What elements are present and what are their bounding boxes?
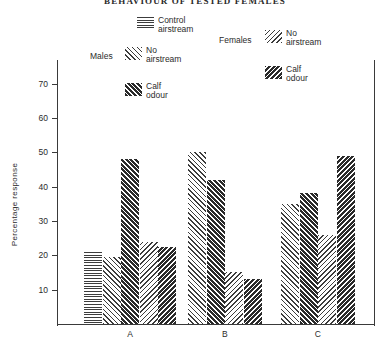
y-axis-title: Percentage response (10, 145, 19, 265)
swatch-reverse-diagonal-light-icon (265, 30, 282, 43)
legend-line-2: airstream (146, 55, 181, 64)
chart-title: BEHAVIOUR OF TESTED FEMALES (0, 0, 390, 6)
bar-chart: BEHAVIOUR OF TESTED FEMALES Control airs… (0, 0, 390, 343)
bar (188, 152, 206, 324)
y-axis-tick (52, 221, 58, 222)
swatch-diagonal-dark-icon (125, 83, 142, 96)
x-axis-tick-label: C (298, 329, 338, 339)
x-axis-line (57, 324, 375, 325)
bar (337, 156, 355, 324)
bar (225, 272, 243, 324)
y-axis-tick (52, 118, 58, 119)
swatch-diagonal-light-icon (125, 47, 142, 60)
legend-label-females-no-airstream: No airstream (286, 29, 321, 46)
bar (281, 204, 299, 324)
legend-line-2: odour (286, 74, 308, 83)
y-axis-tick (52, 290, 58, 291)
legend-item-females-no-airstream: No airstream (265, 29, 321, 46)
legend-item-females-calf-odour: Calf odour (265, 65, 308, 82)
legend-item-males-calf-odour: Calf odour (125, 82, 168, 99)
bar (140, 242, 158, 324)
x-axis-tick-label: A (110, 329, 150, 339)
y-axis-tick-label: 20 (26, 250, 48, 260)
y-axis-tick (52, 84, 58, 85)
bar (84, 252, 102, 324)
legend-group-label-females: Females (219, 35, 252, 45)
y-axis-line (57, 60, 58, 326)
y-axis-tick-label: 30 (26, 216, 48, 226)
y-axis-tick-label: 40 (26, 182, 48, 192)
legend-group-label-males: Males (90, 51, 113, 61)
bar (244, 279, 262, 324)
legend-line-2: airstream (286, 38, 321, 47)
bar (207, 180, 225, 324)
y-axis-tick-label: 70 (26, 79, 48, 89)
legend-label-control-airstream: Control airstream (158, 16, 193, 33)
legend-item-control-airstream: Control airstream (137, 16, 193, 33)
legend-label-males-no-airstream: No airstream (146, 46, 181, 63)
bar (300, 193, 318, 324)
y-axis-tick (52, 255, 58, 256)
bar (158, 247, 176, 324)
legend-line-2: airstream (158, 25, 193, 34)
y-axis-tick (52, 152, 58, 153)
bar (318, 235, 336, 324)
legend-item-males-no-airstream: No airstream (125, 46, 181, 63)
x-axis-tick-label: B (205, 329, 245, 339)
bar (121, 159, 139, 324)
bar (103, 257, 121, 324)
swatch-reverse-diagonal-dark-icon (265, 66, 282, 79)
legend-label-females-calf-odour: Calf odour (286, 65, 308, 82)
legend-label-males-calf-odour: Calf odour (146, 82, 168, 99)
swatch-horizontal-lines-icon (137, 17, 154, 30)
y-axis-tick-label: 50 (26, 147, 48, 157)
y-axis-tick (52, 187, 58, 188)
chart-right-border (374, 60, 375, 326)
y-axis-tick-label: 10 (26, 285, 48, 295)
legend-line-2: odour (146, 91, 168, 100)
y-axis-tick-label: 60 (26, 113, 48, 123)
